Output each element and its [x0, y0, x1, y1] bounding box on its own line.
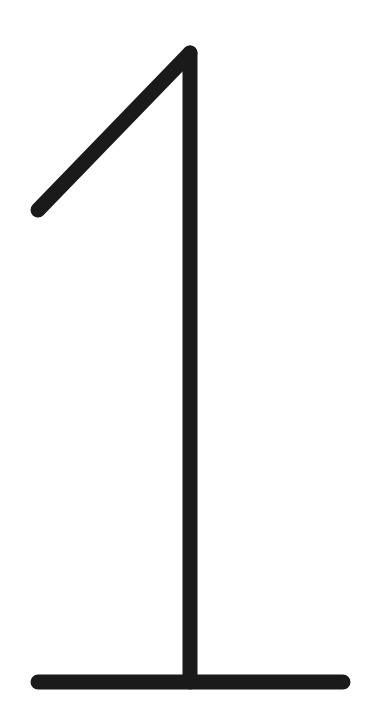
flag-stroke: [38, 53, 190, 210]
numeral-one-icon: [0, 0, 372, 723]
